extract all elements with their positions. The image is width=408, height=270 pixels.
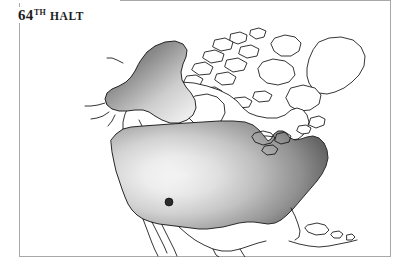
halt-location-marker bbox=[165, 198, 173, 206]
page-title-ordinal: TH bbox=[34, 8, 46, 17]
north-america-map bbox=[19, 0, 391, 257]
contiguous-united-states bbox=[19, 110, 391, 240]
page-title: 64THHALT bbox=[18, 7, 88, 23]
page-title-word: HALT bbox=[50, 10, 84, 22]
page-title-number: 64 bbox=[18, 7, 33, 23]
page-root: 64THHALT bbox=[0, 0, 408, 270]
